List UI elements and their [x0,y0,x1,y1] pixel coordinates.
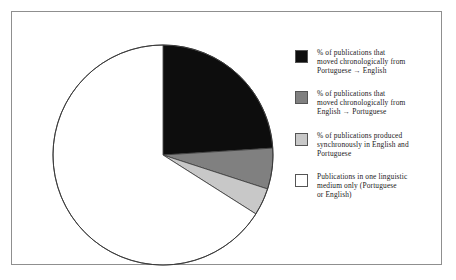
legend-item-label-line: medium only (Portuguese [317,181,407,190]
legend-item-label: Publications in one linguisticmedium onl… [317,172,407,199]
legend-item-label: % of publications thatmoved chronologica… [317,48,405,75]
legend-item-label-line: Portuguese [317,149,409,158]
legend-item-label-line: or English) [317,190,407,199]
pie-slice-group [53,45,273,265]
legend-item-label: % of publications thatmoved chronologica… [317,89,405,116]
legend-item-label-line: % of publications produced [317,131,409,140]
legend-swatch-icon [295,50,308,63]
figure-root: % of publications thatmoved chronologica… [0,0,456,280]
legend-swatch-icon [295,133,308,146]
figure-frame: % of publications thatmoved chronologica… [11,11,442,265]
legend-item-label-line: Publications in one linguistic [317,172,407,181]
legend-item[interactable]: % of publications producedsynchronously … [295,131,455,158]
pie-slice-portuguese-to-english [163,45,273,155]
legend-item-label-line: % of publications that [317,48,405,57]
legend-swatch-icon [295,174,308,187]
legend-item[interactable]: % of publications thatmoved chronologica… [295,89,455,116]
pie-chart-svg [42,32,292,280]
legend-item-label: % of publications producedsynchronously … [317,131,409,158]
legend-item-label-line: English → Portuguese [317,107,405,116]
legend-swatch-icon [295,91,308,104]
legend-item[interactable]: Publications in one linguisticmedium onl… [295,172,455,199]
legend-item-label-line: moved chronologically from [317,98,405,107]
legend-item-label-line: synchronously in English and [317,140,409,149]
pie-chart [42,32,292,280]
legend: % of publications thatmoved chronologica… [295,48,455,213]
legend-item-label-line: moved chronologically from [317,57,405,66]
legend-item[interactable]: % of publications thatmoved chronologica… [295,48,455,75]
legend-item-label-line: % of publications that [317,89,405,98]
legend-item-label-line: Portuguese → English [317,66,405,75]
